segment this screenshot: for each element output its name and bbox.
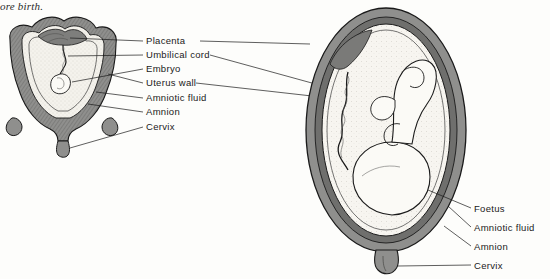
ovary-right [102, 118, 118, 136]
leader-placenta-right [200, 41, 310, 44]
label-uterus-wall: Uterus wall [146, 77, 196, 88]
label-placenta: Placenta [146, 35, 185, 46]
ovary-left [6, 118, 22, 136]
label-embryo: Embryo [146, 63, 181, 74]
embryo-shape [51, 74, 71, 94]
figure-page: ore birth. [0, 0, 550, 279]
foetus-head [353, 142, 430, 215]
label-cervix: Cervix [146, 121, 175, 132]
label-foetus: Foetus [474, 203, 505, 214]
leader-uteruswall-right [196, 83, 312, 96]
label-cervix-right: Cervix [474, 260, 503, 271]
label-amnion: Amnion [146, 106, 180, 117]
cervix-shape-right [375, 250, 399, 274]
label-amnion-right: Amnion [474, 241, 508, 252]
label-amniotic-fluid-right: Amniotic fluid [474, 222, 535, 233]
right-uterus-figure [306, 8, 471, 274]
label-umbilical-cord: Umbilical cord [146, 49, 210, 60]
label-amniotic-fluid: Amniotic fluid [146, 92, 207, 103]
uterus-foetus-diagram [0, 0, 550, 279]
cervix-shape-left [57, 141, 70, 157]
